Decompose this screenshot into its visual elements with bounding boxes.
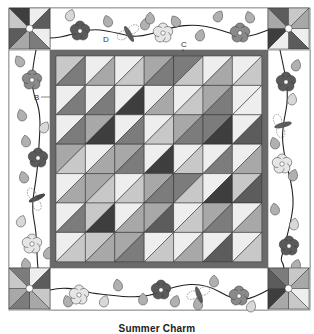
hst-block bbox=[144, 232, 173, 261]
hst-block bbox=[174, 144, 203, 173]
hst-block bbox=[144, 174, 173, 203]
quilt-diagram: D C B bbox=[0, 0, 314, 334]
hst-block bbox=[174, 56, 203, 85]
label-d: D bbox=[103, 35, 109, 44]
hst-block bbox=[144, 85, 173, 114]
hst-block bbox=[115, 203, 144, 232]
corner-block-top-right bbox=[268, 8, 309, 49]
quilt-caption: Summer Charm bbox=[0, 323, 314, 334]
hst-block bbox=[144, 203, 173, 232]
hst-block bbox=[174, 203, 203, 232]
hst-block bbox=[144, 115, 173, 144]
hst-block bbox=[115, 56, 144, 85]
hst-block bbox=[85, 115, 114, 144]
hst-block bbox=[232, 232, 261, 261]
hst-block bbox=[85, 85, 114, 114]
hst-block bbox=[203, 56, 232, 85]
hst-block bbox=[85, 144, 114, 173]
hst-block bbox=[203, 144, 232, 173]
hst-block bbox=[232, 144, 261, 173]
hst-block bbox=[85, 174, 114, 203]
hst-block bbox=[203, 232, 232, 261]
hst-block bbox=[56, 85, 85, 114]
hst-block bbox=[85, 56, 114, 85]
hst-block bbox=[144, 56, 173, 85]
hst-block bbox=[115, 232, 144, 261]
hst-block bbox=[115, 144, 144, 173]
hst-block bbox=[56, 174, 85, 203]
center-button bbox=[285, 25, 292, 32]
hst-block bbox=[115, 115, 144, 144]
hst-block bbox=[56, 115, 85, 144]
corner-block-bottom-left bbox=[9, 268, 50, 309]
hst-block bbox=[174, 232, 203, 261]
hst-block bbox=[203, 85, 232, 114]
hst-block bbox=[203, 174, 232, 203]
hst-block bbox=[232, 115, 261, 144]
corner-block-top-left bbox=[9, 8, 50, 49]
hst-block bbox=[56, 144, 85, 173]
hst-block bbox=[85, 203, 114, 232]
label-b: B bbox=[34, 93, 39, 102]
center-button bbox=[26, 285, 33, 292]
hst-block bbox=[144, 144, 173, 173]
hst-block bbox=[174, 115, 203, 144]
label-c: C bbox=[181, 40, 187, 49]
hst-block bbox=[232, 174, 261, 203]
hst-block bbox=[203, 115, 232, 144]
hst-block bbox=[232, 85, 261, 114]
hst-block bbox=[85, 232, 114, 261]
hst-block bbox=[232, 203, 261, 232]
hst-block bbox=[174, 174, 203, 203]
hst-block bbox=[115, 85, 144, 114]
hst-block bbox=[56, 56, 85, 85]
hst-block bbox=[232, 56, 261, 85]
hst-block bbox=[115, 174, 144, 203]
corner-block-bottom-right bbox=[268, 268, 309, 309]
center-button bbox=[285, 285, 292, 292]
hst-block bbox=[174, 85, 203, 114]
center-button bbox=[26, 25, 33, 32]
triangle-grid bbox=[56, 56, 262, 262]
hst-block bbox=[56, 203, 85, 232]
hst-block bbox=[203, 203, 232, 232]
hst-block bbox=[56, 232, 85, 261]
